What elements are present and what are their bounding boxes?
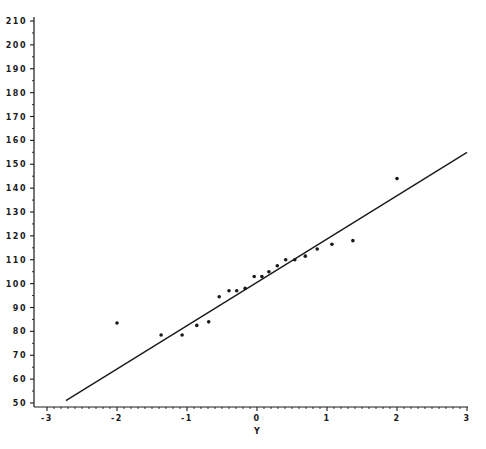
data-point (235, 289, 239, 293)
x-tick-label: 2 (393, 414, 400, 423)
y-tick-label: 180 (6, 89, 27, 98)
fit-line (66, 152, 467, 400)
data-point (195, 324, 199, 328)
data-point (395, 177, 399, 181)
x-axis: -3-2-10123 (34, 407, 471, 423)
y-tick-label: 130 (6, 208, 27, 217)
y-tick-label: 110 (6, 256, 27, 265)
x-tick-label: 1 (323, 414, 330, 423)
data-point (293, 258, 297, 262)
normal-probability-plot: 5060708090100110120130140150160170180190… (0, 0, 486, 449)
data-point (276, 264, 280, 268)
data-point (260, 275, 264, 279)
y-tick-label: 60 (13, 375, 27, 384)
data-point (180, 333, 184, 337)
data-point (115, 321, 119, 325)
data-point (315, 247, 319, 251)
y-tick-label: 150 (6, 160, 27, 169)
x-tick-label: -2 (111, 414, 123, 423)
y-tick-label: 160 (6, 136, 27, 145)
data-point (207, 320, 211, 324)
y-tick-label: 50 (13, 399, 27, 408)
y-tick-label: 70 (13, 351, 27, 360)
y-tick-label: 80 (13, 327, 27, 336)
x-axis-title: Y (253, 427, 260, 436)
data-point (227, 289, 231, 293)
data-point (267, 270, 271, 274)
y-tick-label: 190 (6, 65, 27, 74)
data-point (159, 333, 163, 337)
y-tick-label: 200 (6, 41, 27, 50)
data-point (243, 287, 247, 291)
data-point (284, 258, 288, 262)
data-points (115, 177, 399, 337)
data-point (304, 254, 308, 258)
data-point (252, 275, 256, 279)
y-tick-label: 140 (6, 184, 27, 193)
y-tick-label: 100 (6, 280, 27, 289)
x-tick-label: 3 (463, 414, 470, 423)
x-tick-label: -1 (181, 414, 193, 423)
x-tick-label: 0 (253, 414, 260, 423)
data-point (217, 295, 221, 299)
y-tick-label: 90 (13, 304, 27, 313)
data-point (330, 242, 334, 246)
data-point (351, 239, 355, 243)
reference-line (66, 152, 467, 400)
y-tick-label: 120 (6, 232, 27, 241)
y-tick-label: 210 (6, 17, 27, 26)
y-tick-label: 170 (6, 113, 27, 122)
x-tick-label: -3 (41, 414, 53, 423)
y-axis: 5060708090100110120130140150160170180190… (6, 17, 34, 408)
